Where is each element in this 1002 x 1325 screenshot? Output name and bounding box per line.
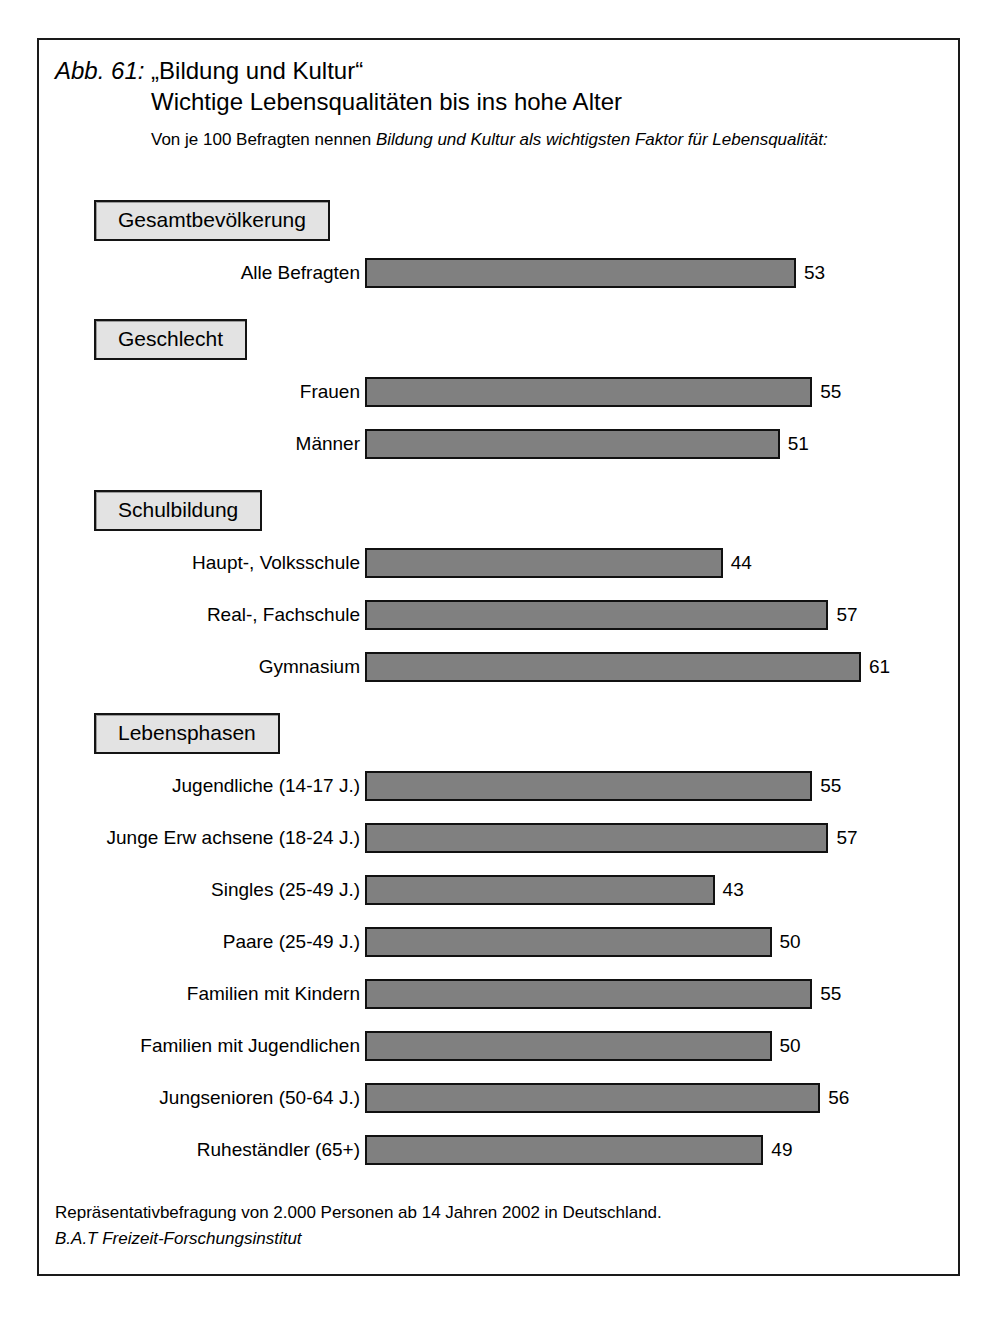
bar-container: 61 xyxy=(365,652,954,682)
bar-container: 55 xyxy=(365,979,954,1009)
bar xyxy=(365,600,828,630)
chart-group: SchulbildungHaupt-, Volksschule44Real-, … xyxy=(39,490,958,693)
chart-row: Männer51 xyxy=(39,418,958,470)
row-label: Frauen xyxy=(39,377,360,407)
chart-row: Familien mit Jugendlichen50 xyxy=(39,1020,958,1072)
group-rows: Haupt-, Volksschule44Real-, Fachschule57… xyxy=(39,537,958,693)
title-line-1: Abb. 61: „Bildung und Kultur“ xyxy=(55,56,944,86)
bar xyxy=(365,258,796,288)
bar-value-label: 49 xyxy=(771,1138,792,1162)
bar-container: 57 xyxy=(365,823,954,853)
bar-value-label: 51 xyxy=(788,432,809,456)
row-label: Real-, Fachschule xyxy=(39,600,360,630)
chart-row: Singles (25-49 J.)43 xyxy=(39,864,958,916)
chart-row: Jungsenioren (50-64 J.)56 xyxy=(39,1072,958,1124)
group-header-2: Geschlecht xyxy=(94,319,247,360)
bar xyxy=(365,771,812,801)
row-label: Ruheständler (65+) xyxy=(39,1135,360,1165)
row-label: Haupt-, Volksschule xyxy=(39,548,360,578)
figure-subtitle: Von je 100 Befragten nennen Bildung und … xyxy=(151,128,851,152)
row-label: Jungsenioren (50-64 J.) xyxy=(39,1083,360,1113)
bar-container: 56 xyxy=(365,1083,954,1113)
figure-footer: Repräsentativbefragung von 2.000 Persone… xyxy=(55,1200,662,1252)
bar xyxy=(365,377,812,407)
bar xyxy=(365,1031,772,1061)
bar-container: 50 xyxy=(365,927,954,957)
chart-plot-area: GesamtbevölkerungAlle Befragten53Geschle… xyxy=(39,200,958,1176)
group-header-1: Gesamtbevölkerung xyxy=(94,200,330,241)
bar-value-label: 56 xyxy=(828,1086,849,1110)
row-label: Familien mit Jugendlichen xyxy=(39,1031,360,1061)
row-label: Singles (25-49 J.) xyxy=(39,875,360,905)
row-label: Gymnasium xyxy=(39,652,360,682)
bar xyxy=(365,652,861,682)
figure-frame: Abb. 61: „Bildung und Kultur“ Wichtige L… xyxy=(37,38,960,1276)
bar-value-label: 57 xyxy=(836,603,857,627)
subtitle-emphasis: Bildung und Kultur als wichtigsten Fakto… xyxy=(376,130,828,149)
bar xyxy=(365,548,723,578)
row-label: Paare (25-49 J.) xyxy=(39,927,360,957)
bar-container: 49 xyxy=(365,1135,954,1165)
chart-row: Jugendliche (14-17 J.)55 xyxy=(39,760,958,812)
bar-container: 44 xyxy=(365,548,954,578)
row-label: Junge Erw achsene (18-24 J.) xyxy=(39,823,360,853)
chart-row: Alle Befragten53 xyxy=(39,247,958,299)
bar-value-label: 55 xyxy=(820,774,841,798)
row-label: Jugendliche (14-17 J.) xyxy=(39,771,360,801)
chart-row: Frauen55 xyxy=(39,366,958,418)
bar-value-label: 61 xyxy=(869,655,890,679)
bar-container: 51 xyxy=(365,429,954,459)
bar-container: 50 xyxy=(365,1031,954,1061)
bar xyxy=(365,429,780,459)
figure-number: Abb. 61: xyxy=(55,57,144,84)
row-label: Männer xyxy=(39,429,360,459)
subtitle-plain: Von je 100 Befragten nennen xyxy=(151,130,376,149)
group-header-4: Lebensphasen xyxy=(94,713,280,754)
bar-value-label: 44 xyxy=(731,551,752,575)
bar xyxy=(365,823,828,853)
bar-container: 43 xyxy=(365,875,954,905)
chart-group: GesamtbevölkerungAlle Befragten53 xyxy=(39,200,958,299)
bar xyxy=(365,927,772,957)
bar xyxy=(365,979,812,1009)
bar-container: 55 xyxy=(365,377,954,407)
title-block: Abb. 61: „Bildung und Kultur“ Wichtige L… xyxy=(55,56,944,152)
chart-group: GeschlechtFrauen55Männer51 xyxy=(39,319,958,470)
figure-title-quoted: „Bildung und Kultur“ xyxy=(151,57,363,84)
chart-row: Ruheständler (65+)49 xyxy=(39,1124,958,1176)
bar-value-label: 50 xyxy=(780,1034,801,1058)
bar-value-label: 53 xyxy=(804,261,825,285)
bar-value-label: 50 xyxy=(780,930,801,954)
chart-row: Junge Erw achsene (18-24 J.)57 xyxy=(39,812,958,864)
bar-container: 55 xyxy=(365,771,954,801)
group-rows: Alle Befragten53 xyxy=(39,247,958,299)
chart-row: Familien mit Kindern55 xyxy=(39,968,958,1020)
bar-value-label: 43 xyxy=(723,878,744,902)
figure-title-subline: Wichtige Lebensqualitäten bis ins hohe A… xyxy=(151,86,944,118)
bar xyxy=(365,1135,763,1165)
group-header-3: Schulbildung xyxy=(94,490,262,531)
chart-row: Haupt-, Volksschule44 xyxy=(39,537,958,589)
group-rows: Frauen55Männer51 xyxy=(39,366,958,470)
footer-source: B.A.T Freizeit-Forschungsinstitut xyxy=(55,1226,662,1252)
footer-methodology: Repräsentativbefragung von 2.000 Persone… xyxy=(55,1200,662,1226)
row-label: Alle Befragten xyxy=(39,258,360,288)
bar-value-label: 55 xyxy=(820,380,841,404)
chart-row: Paare (25-49 J.)50 xyxy=(39,916,958,968)
group-rows: Jugendliche (14-17 J.)55Junge Erw achsen… xyxy=(39,760,958,1176)
bar-container: 53 xyxy=(365,258,954,288)
chart-group: LebensphasenJugendliche (14-17 J.)55Jung… xyxy=(39,713,958,1176)
bar-value-label: 57 xyxy=(836,826,857,850)
bar-value-label: 55 xyxy=(820,982,841,1006)
bar xyxy=(365,1083,820,1113)
chart-row: Gymnasium61 xyxy=(39,641,958,693)
chart-row: Real-, Fachschule57 xyxy=(39,589,958,641)
bar-container: 57 xyxy=(365,600,954,630)
bar xyxy=(365,875,715,905)
row-label: Familien mit Kindern xyxy=(39,979,360,1009)
